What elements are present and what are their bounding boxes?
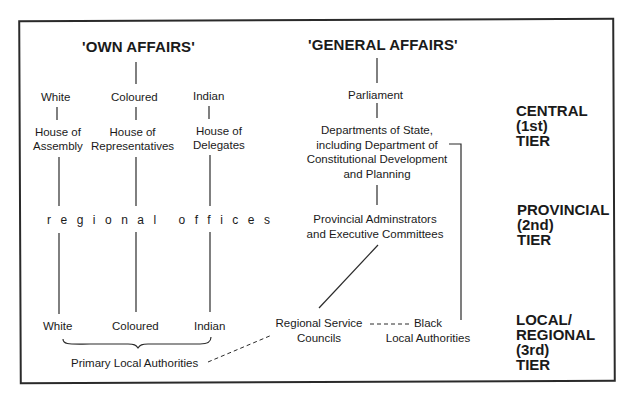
local-indian-label: Indian [194, 319, 225, 333]
primary-local-authorities: Primary Local Authorities [71, 356, 198, 370]
house-of-assembly: House of Assembly [33, 125, 83, 153]
house-of-delegates: House of Delegates [193, 124, 245, 152]
local-white-label: White [43, 319, 72, 333]
house-of-representatives: House of Representatives [91, 125, 174, 153]
local-coloured-label: Coloured [112, 319, 159, 333]
tier-local-regional: LOCAL/ REGIONAL (3rd) TIER [516, 312, 595, 372]
regional-service-councils: Regional Service Councils [269, 316, 369, 346]
departments-of-state: Departments of State, including Departme… [304, 123, 450, 181]
general-affairs-title: 'GENERAL AFFAIRS' [308, 38, 458, 52]
tier-provincial: PROVINCIAL (2nd) TIER [517, 202, 610, 247]
own-affairs-title: 'OWN AFFAIRS' [82, 40, 195, 54]
own-affairs-indian-label: Indian [193, 89, 224, 103]
own-affairs-white-label: White [41, 90, 70, 104]
provincial-administrators: Provincial Adminstrators and Executive C… [300, 212, 450, 242]
tier-central: CENTRAL (1st) TIER [516, 103, 588, 148]
regional-offices-label: regional offices [47, 213, 280, 227]
own-affairs-coloured-label: Coloured [111, 90, 158, 104]
black-local-authorities: Black Local Authorities [378, 316, 478, 346]
parliament-label: Parliament [348, 88, 403, 102]
